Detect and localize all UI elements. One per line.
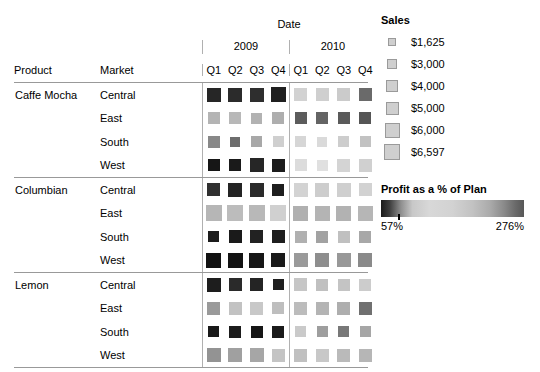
year-header-2009[interactable]: 2009 (202, 40, 289, 54)
table-row[interactable]: South (14, 225, 368, 249)
heatmap-cell[interactable] (225, 178, 247, 202)
heatmap-cell[interactable] (312, 225, 334, 249)
heatmap-cell[interactable] (333, 273, 355, 297)
heatmap-cell[interactable] (355, 297, 377, 321)
heatmap-cell[interactable] (312, 320, 334, 344)
heatmap-cell[interactable] (203, 225, 225, 249)
sales-legend-item[interactable]: $1,625 (381, 31, 531, 53)
quarter-header-2010-q4[interactable]: Q4 (355, 64, 377, 76)
heatmap-cell[interactable] (355, 320, 377, 344)
heatmap-cell[interactable] (290, 225, 312, 249)
heatmap-cell[interactable] (333, 249, 355, 273)
quarter-header-2010-q1[interactable]: Q1 (290, 64, 312, 76)
year-header-2010[interactable]: 2010 (289, 40, 376, 54)
heatmap-cell[interactable] (268, 178, 290, 202)
heatmap-cell[interactable] (312, 344, 334, 368)
heatmap-cell[interactable] (312, 178, 334, 202)
heatmap-cell[interactable] (268, 273, 290, 297)
heatmap-cell[interactable] (246, 225, 268, 249)
heatmap-cell[interactable] (268, 344, 290, 368)
heatmap-cell[interactable] (290, 344, 312, 368)
heatmap-cell[interactable] (312, 202, 334, 226)
heatmap-cell[interactable] (312, 154, 334, 178)
heatmap-cell[interactable] (312, 130, 334, 154)
heatmap-cell[interactable] (203, 83, 225, 107)
heatmap-cell[interactable] (268, 297, 290, 321)
heatmap-cell[interactable] (203, 273, 225, 297)
sales-legend-item[interactable]: $4,000 (381, 75, 531, 97)
heatmap-cell[interactable] (246, 320, 268, 344)
table-row[interactable]: Caffe MochaCentral (14, 83, 368, 107)
heatmap-cell[interactable] (355, 344, 377, 368)
heatmap-cell[interactable] (225, 273, 247, 297)
heatmap-cell[interactable] (268, 83, 290, 107)
table-row[interactable]: West (14, 249, 368, 273)
heatmap-cell[interactable] (312, 249, 334, 273)
heatmap-cell[interactable] (355, 178, 377, 202)
heatmap-cell[interactable] (333, 107, 355, 131)
table-row[interactable]: South (14, 130, 368, 154)
heatmap-cell[interactable] (355, 130, 377, 154)
heatmap-cell[interactable] (246, 130, 268, 154)
heatmap-cell[interactable] (225, 344, 247, 368)
table-row[interactable]: East (14, 297, 368, 321)
heatmap-cell[interactable] (333, 154, 355, 178)
heatmap-cell[interactable] (246, 83, 268, 107)
sales-legend-item[interactable]: $3,000 (381, 53, 531, 75)
heatmap-cell[interactable] (246, 178, 268, 202)
table-row[interactable]: East (14, 202, 368, 226)
heatmap-cell[interactable] (355, 107, 377, 131)
heatmap-cell[interactable] (290, 130, 312, 154)
market-column-header[interactable]: Market (100, 64, 202, 76)
table-row[interactable]: West (14, 344, 368, 368)
heatmap-cell[interactable] (355, 273, 377, 297)
table-row[interactable]: LemonCentral (14, 273, 368, 297)
heatmap-cell[interactable] (246, 154, 268, 178)
heatmap-cell[interactable] (312, 83, 334, 107)
heatmap-cell[interactable] (333, 178, 355, 202)
heatmap-cell[interactable] (203, 154, 225, 178)
quarter-header-2009-q3[interactable]: Q3 (246, 64, 268, 76)
table-row[interactable]: South (14, 320, 368, 344)
heatmap-cell[interactable] (355, 154, 377, 178)
heatmap-cell[interactable] (246, 202, 268, 226)
profit-gradient-bar[interactable] (381, 200, 524, 217)
heatmap-cell[interactable] (246, 249, 268, 273)
heatmap-cell[interactable] (290, 107, 312, 131)
heatmap-cell[interactable] (203, 249, 225, 273)
quarter-header-2009-q4[interactable]: Q4 (268, 64, 290, 76)
heatmap-cell[interactable] (333, 83, 355, 107)
heatmap-cell[interactable] (290, 154, 312, 178)
heatmap-cell[interactable] (203, 107, 225, 131)
quarter-header-2010-q2[interactable]: Q2 (312, 64, 334, 76)
heatmap-cell[interactable] (333, 130, 355, 154)
heatmap-cell[interactable] (312, 297, 334, 321)
heatmap-cell[interactable] (268, 225, 290, 249)
heatmap-cell[interactable] (333, 320, 355, 344)
heatmap-cell[interactable] (225, 154, 247, 178)
heatmap-cell[interactable] (312, 273, 334, 297)
quarter-header-2010-q3[interactable]: Q3 (333, 64, 355, 76)
heatmap-cell[interactable] (246, 273, 268, 297)
sales-legend-item[interactable]: $6,597 (381, 141, 531, 163)
heatmap-cell[interactable] (355, 83, 377, 107)
heatmap-cell[interactable] (355, 202, 377, 226)
heatmap-cell[interactable] (290, 297, 312, 321)
heatmap-cell[interactable] (268, 154, 290, 178)
heatmap-cell[interactable] (225, 130, 247, 154)
heatmap-cell[interactable] (290, 178, 312, 202)
table-row[interactable]: East (14, 107, 368, 131)
heatmap-cell[interactable] (333, 344, 355, 368)
product-column-header[interactable]: Product (14, 64, 100, 76)
heatmap-cell[interactable] (355, 225, 377, 249)
heatmap-cell[interactable] (203, 344, 225, 368)
heatmap-cell[interactable] (333, 297, 355, 321)
heatmap-cell[interactable] (225, 202, 247, 226)
heatmap-cell[interactable] (246, 107, 268, 131)
heatmap-cell[interactable] (268, 130, 290, 154)
heatmap-cell[interactable] (203, 130, 225, 154)
heatmap-cell[interactable] (225, 297, 247, 321)
heatmap-cell[interactable] (268, 249, 290, 273)
heatmap-cell[interactable] (268, 107, 290, 131)
table-row[interactable]: West (14, 154, 368, 178)
